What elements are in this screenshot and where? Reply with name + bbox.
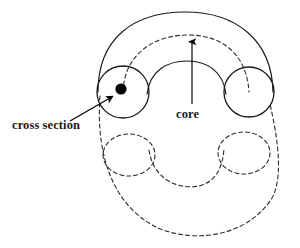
torus-cross-section-diagram: cross section core <box>0 0 300 248</box>
hidden-profile-ellipse-right <box>218 132 270 174</box>
core-circle-arc <box>123 35 249 92</box>
cross-section-label: cross section <box>12 119 80 132</box>
inner-hole-back-arc <box>149 148 224 187</box>
hidden-profile-ellipse-left <box>103 134 155 176</box>
outer-tube-front-arc <box>98 12 273 92</box>
core-label: core <box>176 108 199 121</box>
cross-section-center-dot <box>115 83 126 94</box>
inner-hole-front-arc <box>147 61 226 94</box>
